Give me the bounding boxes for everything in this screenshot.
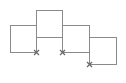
- square-3: [63, 26, 90, 53]
- square-1: [11, 26, 37, 53]
- square-2: [37, 11, 63, 38]
- square-4: [90, 38, 117, 65]
- squares-group: [11, 11, 117, 65]
- diagram-canvas: [0, 0, 126, 83]
